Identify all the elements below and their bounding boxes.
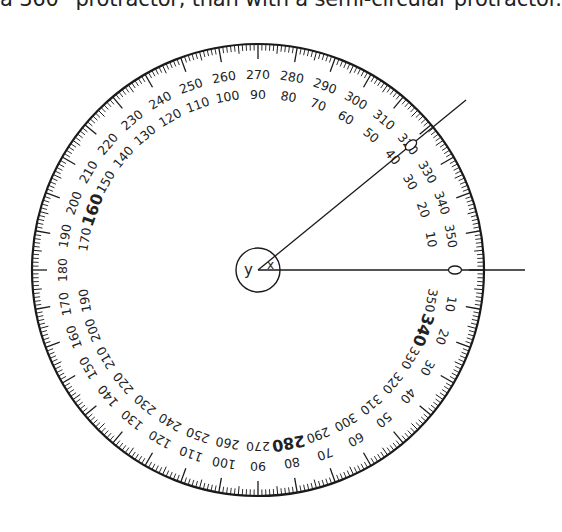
scale-label: 90	[250, 87, 266, 102]
tick-mark	[456, 193, 470, 198]
tick-mark	[113, 97, 123, 108]
tick-mark	[238, 45, 239, 54]
tick-mark	[295, 47, 298, 62]
scale-label: 70	[315, 444, 335, 464]
tick-mark	[350, 65, 354, 73]
scale-label: 10	[423, 230, 441, 248]
zero-marker-horizontal	[449, 266, 462, 274]
tick-mark	[466, 307, 481, 310]
tick-mark	[468, 212, 477, 214]
tick-mark	[238, 486, 239, 495]
scale-label: 100	[214, 87, 240, 106]
scale-label: 30	[400, 171, 421, 192]
scale-label: 170	[75, 226, 94, 252]
tick-mark	[73, 394, 80, 399]
inner-scale-labels: 1020304050607080901001101201301401501601…	[75, 87, 441, 456]
scale-label: 50	[373, 409, 395, 431]
tick-mark	[455, 362, 463, 366]
scale-label: 350	[422, 288, 441, 314]
tick-mark	[145, 74, 153, 87]
tick-mark	[35, 231, 50, 234]
tick-mark	[468, 326, 477, 328]
tick-mark	[85, 406, 96, 416]
scale-label: 110	[177, 443, 205, 465]
tick-mark	[420, 406, 431, 416]
scale-label: 80	[283, 454, 301, 472]
tick-mark	[394, 97, 404, 108]
scale-label: 270	[246, 67, 270, 82]
tick-mark	[53, 174, 61, 178]
tick-mark	[85, 125, 96, 135]
tick-mark	[33, 250, 42, 251]
scale-label: 160	[63, 323, 85, 351]
scale-label: 290	[311, 75, 339, 97]
scale-label: 20	[414, 200, 434, 220]
scale-label: 290	[304, 424, 332, 446]
tick-mark	[113, 432, 123, 443]
tick-mark	[200, 480, 202, 489]
tick-mark	[364, 74, 372, 87]
scale-label: 170	[56, 291, 75, 317]
scale-label: 110	[184, 93, 212, 115]
scale-label: 70	[308, 95, 328, 115]
tick-mark	[35, 307, 50, 310]
scale-label: 250	[184, 424, 212, 446]
tick-mark	[181, 58, 186, 72]
scale-label: 350	[442, 223, 461, 249]
tick-mark	[128, 85, 133, 92]
scale-label: 340	[409, 311, 438, 349]
tick-mark	[411, 423, 417, 429]
tick-mark	[441, 157, 454, 165]
scale-label: 280	[279, 68, 305, 87]
angle-label-y: y	[244, 261, 253, 279]
tick-mark	[46, 342, 60, 347]
scale-label: 190	[75, 287, 94, 313]
tick-mark	[277, 45, 278, 54]
scale-label: 180	[55, 258, 70, 282]
scale-label: 280	[270, 431, 306, 456]
tick-mark	[436, 394, 443, 399]
tick-mark	[441, 376, 454, 384]
tick-mark	[33, 289, 42, 290]
scale-label: 60	[345, 429, 366, 450]
scale-label: 210	[93, 344, 118, 372]
tick-mark	[474, 250, 483, 251]
scale-label: 250	[177, 75, 205, 97]
tick-mark	[382, 85, 387, 92]
scale-label: 30	[417, 357, 438, 378]
tick-mark	[181, 468, 186, 482]
tick-mark	[162, 467, 166, 475]
scale-label: 40	[397, 385, 419, 407]
scale-label: 90	[250, 459, 266, 474]
tick-mark	[145, 453, 153, 466]
scale-label: 80	[279, 88, 297, 106]
scale-label: 10	[442, 295, 460, 313]
tick-mark	[98, 423, 104, 429]
scale-label: 50	[360, 124, 382, 146]
tick-mark	[73, 140, 80, 145]
tick-mark	[330, 58, 335, 72]
tick-mark	[62, 157, 75, 165]
tick-mark	[46, 193, 60, 198]
tick-mark	[98, 110, 104, 116]
scale-label: 100	[211, 454, 237, 473]
scale-label: 330	[398, 344, 423, 372]
tick-mark	[53, 362, 61, 366]
scale-label: 150	[93, 168, 118, 196]
scale-label: 20	[432, 327, 452, 347]
tick-mark	[314, 52, 316, 61]
tick-mark	[330, 468, 335, 482]
scale-label: 260	[214, 434, 240, 453]
tick-mark	[277, 486, 278, 495]
scale-label: 260	[211, 68, 237, 87]
tick-mark	[295, 478, 298, 493]
tick-mark	[466, 231, 481, 234]
tick-mark	[411, 110, 417, 116]
tick-mark	[455, 174, 463, 178]
scale-label: 200	[81, 316, 103, 344]
tick-mark	[162, 65, 166, 73]
tick-mark	[62, 376, 75, 384]
scale-label: 40	[382, 146, 404, 168]
tick-mark	[364, 453, 372, 466]
